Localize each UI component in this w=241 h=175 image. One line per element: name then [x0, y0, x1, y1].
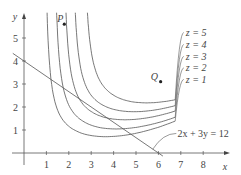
y-tick-label: 4: [13, 56, 18, 67]
level-curve-label: z = 3: [185, 51, 207, 62]
y-tick-label: 2: [13, 102, 18, 113]
y-tick-label: 1: [13, 125, 18, 136]
y-axis-label: y: [12, 11, 18, 22]
x-axis-arrow-icon: [224, 151, 230, 155]
level-curve-z3: [66, 13, 175, 120]
point-label: P: [56, 13, 63, 24]
level-curve-z4: [75, 13, 175, 112]
x-axis-label: x: [222, 161, 228, 172]
level-curve-z5: [87, 13, 175, 103]
y-tick-label: 5: [13, 33, 18, 44]
constraint-leader: [153, 133, 177, 149]
constraint-line: [13, 53, 163, 156]
x-tick-label: 5: [134, 159, 139, 170]
level-curve-label: z = 2: [185, 62, 207, 73]
x-tick-label: 3: [89, 159, 94, 170]
x-tick-label: 7: [178, 159, 183, 170]
level-curve-chart: x y 12345678 12345 z = 1z = 2z = 3z = 4z…: [0, 0, 241, 175]
x-tick-label: 4: [111, 159, 116, 170]
x-tick-label: 8: [201, 159, 206, 170]
point-q: [159, 80, 162, 83]
constraint-label: 2x + 3y = 12: [177, 128, 228, 139]
x-tick-label: 6: [156, 159, 161, 170]
x-tick-label: 1: [44, 159, 49, 170]
y-tick-label: 3: [13, 79, 18, 90]
level-curve-label: z = 1: [185, 74, 207, 85]
point-label: Q: [151, 71, 159, 82]
level-curve-label: z = 4: [185, 39, 207, 50]
x-tick-label: 2: [66, 159, 71, 170]
level-curve-label: z = 5: [185, 27, 207, 38]
y-axis-arrow-icon: [22, 13, 26, 19]
